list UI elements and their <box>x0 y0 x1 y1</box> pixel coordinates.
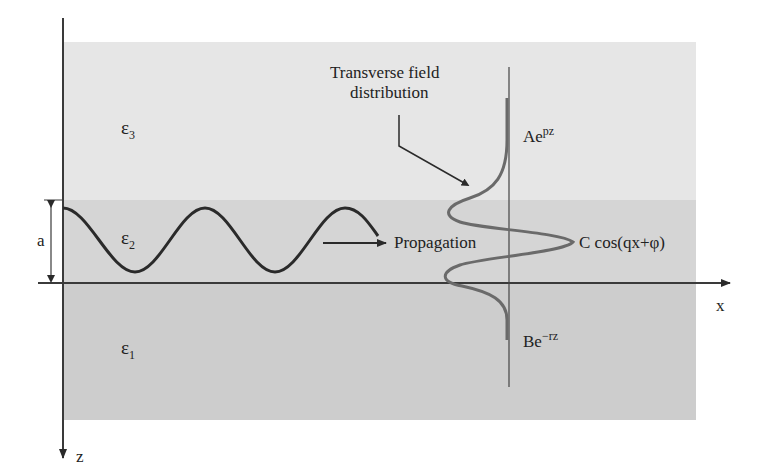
layer-substrate <box>63 283 696 420</box>
epsilon-2-label: ε2 <box>121 228 135 247</box>
field-expr-top: Aepz <box>523 128 554 145</box>
z-axis-label: z <box>76 448 84 465</box>
x-axis-label: x <box>716 297 725 314</box>
transverse-field-label-line1: Transverse field <box>330 64 439 81</box>
epsilon-3-label: ε3 <box>121 118 135 137</box>
thickness-label: a <box>37 232 45 249</box>
transverse-field-label-line2: distribution <box>350 84 428 101</box>
field-expr-core: C cos(qx+φ) <box>579 234 665 251</box>
epsilon-1-label: ε1 <box>121 338 135 357</box>
propagation-label: Propagation <box>394 234 476 251</box>
field-expr-bottom: Be−rz <box>523 333 558 350</box>
